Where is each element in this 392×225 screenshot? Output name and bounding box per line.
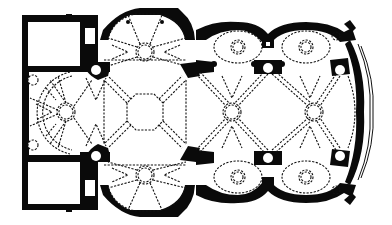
stair-bottom-icon bbox=[28, 140, 38, 150]
floor-plan bbox=[0, 0, 392, 225]
north-chapel bbox=[100, 8, 195, 66]
right-apse bbox=[332, 20, 373, 205]
crossing bbox=[86, 76, 186, 148]
nave-vaults bbox=[196, 72, 355, 152]
south-chapel bbox=[100, 162, 195, 217]
south-aisle bbox=[196, 149, 356, 203]
stair-top-icon bbox=[28, 75, 38, 85]
crossing-piers bbox=[86, 62, 200, 162]
north-aisle bbox=[196, 22, 356, 76]
left-apse bbox=[30, 72, 92, 154]
